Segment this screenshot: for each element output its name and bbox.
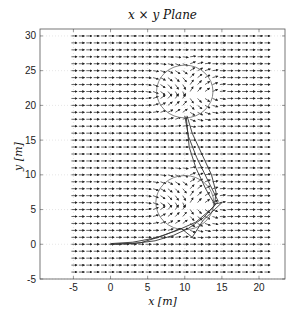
x-tick-label: 15 (216, 282, 228, 293)
y-tick-label: 30 (25, 30, 37, 41)
y-tick-label: 10 (25, 169, 37, 180)
y-tick-label: 0 (30, 239, 36, 250)
plot-area: -505101520 -5051015202530 (0, 0, 300, 316)
x-tick-label: -5 (69, 282, 78, 293)
y-tick-label: 15 (25, 135, 37, 146)
y-axis-label: y [m] (12, 137, 25, 177)
x-tick-label: 5 (145, 282, 151, 293)
upper-circle (157, 65, 213, 118)
x-tick-label: 10 (179, 282, 191, 293)
x-tick-label: 0 (108, 282, 114, 293)
y-axis-ticks: -5051015202530 (25, 30, 285, 284)
y-tick-label: -5 (27, 274, 36, 285)
y-tick-label: 5 (30, 204, 36, 215)
trajectories (111, 116, 222, 245)
y-tick-label: 25 (25, 65, 37, 76)
path-3 (111, 118, 222, 244)
y-tick-label: 20 (25, 100, 37, 111)
chart-title: x × y Plane (40, 8, 285, 22)
x-axis-label: x [m] (40, 295, 285, 308)
x-tick-label: 20 (253, 282, 265, 293)
figure: x × y Plane -505101520 -5051015202530 x … (0, 0, 300, 316)
